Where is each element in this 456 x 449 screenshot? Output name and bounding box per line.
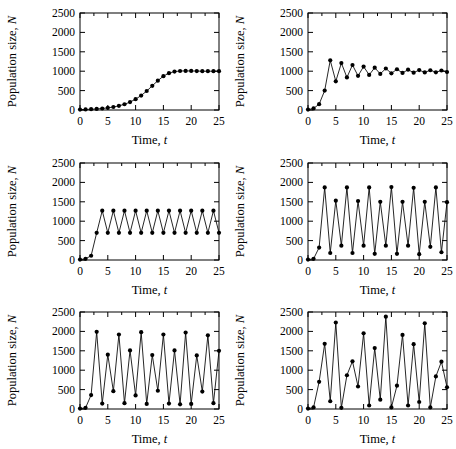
x-tick-label: 25 — [441, 414, 453, 426]
y-tick-label: 1000 — [52, 215, 75, 227]
x-tick-label: 5 — [105, 115, 111, 127]
data-point — [306, 407, 310, 411]
data-point — [111, 105, 115, 109]
data-point — [89, 107, 93, 111]
y-axis-title-symbol: N — [5, 15, 19, 25]
data-point — [317, 102, 321, 106]
data-point — [195, 69, 199, 73]
y-tick-label: 0 — [297, 254, 303, 266]
data-point — [78, 407, 82, 411]
x-tick-label: 20 — [413, 414, 425, 426]
x-tick-label: 25 — [213, 115, 225, 127]
data-point — [184, 69, 188, 73]
y-tick-label: 500 — [58, 384, 76, 396]
y-tick-label: 0 — [69, 104, 75, 116]
data-point — [339, 61, 343, 65]
chart-panel-5: 050010001500200025000510152025Time, tPop… — [0, 299, 228, 449]
data-point — [211, 69, 215, 73]
data-point — [139, 330, 143, 334]
data-point — [389, 71, 393, 75]
data-point — [117, 231, 121, 235]
x-axis-title-text: Time, — [360, 133, 392, 147]
data-point — [356, 74, 360, 78]
data-point — [306, 108, 310, 112]
x-tick-label: 5 — [333, 414, 339, 426]
y-tick-label: 2000 — [280, 325, 303, 337]
data-point — [339, 406, 343, 410]
x-axis-title: Time, t — [132, 283, 168, 297]
y-axis-title-text: Population size, — [233, 323, 247, 406]
data-point — [206, 231, 210, 235]
data-point — [345, 75, 349, 79]
data-point — [172, 231, 176, 235]
y-axis-title-symbol: N — [5, 165, 19, 175]
data-point — [211, 401, 215, 405]
data-point — [111, 389, 115, 393]
data-point — [150, 84, 154, 88]
x-tick-label: 0 — [77, 265, 83, 277]
x-axis-title-text: Time, — [132, 432, 164, 446]
data-point — [184, 330, 188, 334]
data-point — [417, 252, 421, 256]
data-point — [417, 68, 421, 72]
data-point — [145, 89, 149, 93]
x-tick-label: 25 — [441, 265, 453, 277]
data-point — [83, 406, 87, 410]
x-axis-title-symbol: t — [164, 432, 168, 446]
data-point — [445, 385, 449, 389]
data-point — [373, 252, 377, 256]
data-point — [145, 209, 149, 213]
data-point — [323, 342, 327, 346]
y-tick-label: 1500 — [52, 345, 75, 357]
data-point — [161, 332, 165, 336]
y-tick-label: 0 — [297, 403, 303, 415]
data-point — [122, 102, 126, 106]
data-point — [406, 68, 410, 72]
data-point — [95, 107, 99, 111]
data-point — [362, 244, 366, 248]
data-point — [200, 209, 204, 213]
data-point — [195, 231, 199, 235]
plot-frame — [80, 13, 219, 110]
data-point — [439, 68, 443, 72]
x-axis-title-symbol: t — [392, 133, 396, 147]
data-point — [134, 209, 138, 213]
data-point — [83, 257, 87, 261]
data-point — [434, 185, 438, 189]
x-tick-label: 15 — [386, 115, 398, 127]
data-point — [206, 333, 210, 337]
x-tick-label: 20 — [413, 265, 425, 277]
data-point — [311, 106, 315, 110]
y-tick-label: 2500 — [280, 157, 303, 169]
data-point — [423, 321, 427, 325]
data-point — [167, 209, 171, 213]
x-tick-label: 5 — [105, 265, 111, 277]
data-point — [145, 402, 149, 406]
data-point — [178, 402, 182, 406]
data-point — [217, 349, 221, 353]
data-point — [100, 209, 104, 213]
data-point — [356, 199, 360, 203]
data-point — [439, 250, 443, 254]
y-axis-title: Population size, N — [5, 165, 19, 257]
data-point — [83, 107, 87, 111]
x-tick-label: 0 — [305, 414, 311, 426]
data-point — [323, 185, 327, 189]
data-point — [217, 231, 221, 235]
y-axis-title: Population size, N — [5, 314, 19, 406]
data-point — [128, 100, 132, 104]
chart-panel-2: 050010001500200025000510152025Time, tPop… — [228, 0, 456, 150]
x-tick-label: 15 — [158, 265, 170, 277]
y-tick-label: 2500 — [52, 7, 75, 19]
data-point — [423, 70, 427, 74]
y-tick-label: 2500 — [52, 306, 75, 318]
y-tick-label: 500 — [58, 235, 76, 247]
chart-panel-6: 050010001500200025000510152025Time, tPop… — [228, 299, 456, 449]
data-point — [328, 58, 332, 62]
data-point — [406, 403, 410, 407]
data-point — [106, 106, 110, 110]
data-point — [434, 374, 438, 378]
data-point — [362, 331, 366, 335]
data-point — [117, 104, 121, 108]
y-tick-label: 2000 — [280, 176, 303, 188]
